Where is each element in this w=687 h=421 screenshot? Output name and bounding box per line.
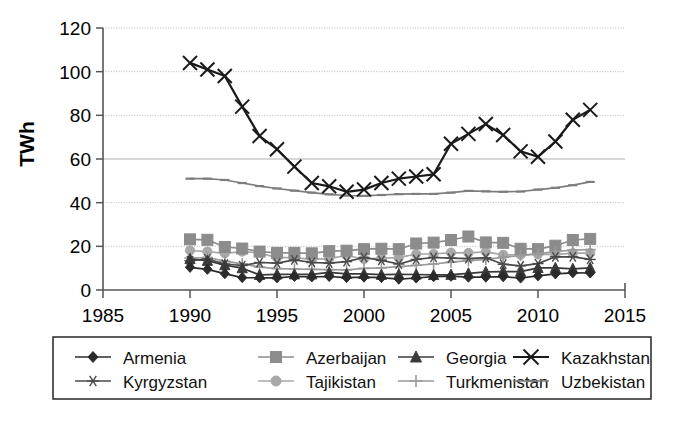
y-axis-title: TWh (15, 121, 38, 166)
legend-label-azerbaijan: Azerbaijan (306, 349, 386, 368)
marker-x (218, 69, 232, 83)
y-tick-label-100: 100 (59, 62, 91, 83)
legend-label-georgia: Georgia (446, 349, 507, 368)
marker-x (235, 100, 249, 114)
marker-square (272, 247, 283, 258)
marker-square (219, 241, 230, 252)
x-tick-label-2005: 2005 (430, 305, 472, 326)
marker-square (271, 352, 282, 363)
legend-label-kazakhstan: Kazakhstan (561, 349, 650, 368)
marker-square (480, 237, 491, 248)
x-tick-label-2010: 2010 (517, 305, 559, 326)
marker-x (461, 127, 475, 141)
marker-x (514, 144, 528, 158)
y-tick-label-120: 120 (59, 18, 91, 39)
y-tick-label-80: 80 (70, 105, 91, 126)
marker-x (287, 160, 301, 174)
y-tick-label-20: 20 (70, 236, 91, 257)
marker-diamond (429, 272, 438, 282)
marker-diamond (88, 352, 98, 363)
y-tick-label-60: 60 (70, 149, 91, 170)
marker-plus (428, 258, 439, 269)
x-tick-label-2000: 2000 (343, 305, 385, 326)
marker-circle (412, 249, 421, 258)
series-line-azerbaijan (190, 237, 590, 254)
legend-item-kazakhstan[interactable]: Kazakhstan (513, 349, 650, 368)
x-tick-label-1995: 1995 (256, 305, 298, 326)
legend-item-tajikistan[interactable]: Tajikistan (258, 373, 376, 392)
marker-x (531, 150, 545, 164)
marker-square (341, 245, 352, 256)
x-tick-label-1990: 1990 (169, 305, 211, 326)
marker-square (324, 246, 335, 257)
marker-asterisk (87, 376, 99, 386)
marker-square (393, 244, 404, 255)
y-tick-label-0: 0 (80, 280, 91, 301)
marker-square (185, 234, 196, 245)
marker-circle (271, 376, 281, 386)
legend-item-turkmenistan[interactable]: Turkmenistan (398, 373, 548, 392)
marker-x (479, 117, 493, 131)
marker-x (253, 129, 267, 143)
y-tick-label-40: 40 (70, 193, 91, 214)
legend-label-turkmenistan: Turkmenistan (446, 373, 548, 392)
marker-square (428, 237, 439, 248)
legend-item-armenia[interactable]: Armenia (75, 349, 187, 368)
marker-x (270, 142, 284, 156)
x-tick-label-1985: 1985 (82, 305, 124, 326)
marker-square (498, 237, 509, 248)
marker-x (200, 62, 214, 76)
x-tick-label-2015: 2015 (604, 305, 646, 326)
legend-label-armenia: Armenia (123, 349, 187, 368)
marker-circle (446, 248, 455, 257)
marker-x (183, 56, 197, 70)
series-line-kazakhstan (190, 63, 590, 192)
marker-diamond (238, 272, 247, 282)
marker-square (289, 247, 300, 258)
marker-plus (410, 375, 422, 387)
marker-x (583, 103, 597, 117)
marker-x (566, 113, 580, 127)
marker-x (374, 176, 388, 190)
marker-x (444, 137, 458, 151)
marker-square (306, 248, 317, 259)
marker-square (237, 243, 248, 254)
marker-square (446, 235, 457, 246)
legend-label-kyrgyzstan: Kyrgyzstan (123, 373, 207, 392)
legend-item-azerbaijan[interactable]: Azerbaijan (258, 349, 386, 368)
marker-square (376, 243, 387, 254)
marker-square (585, 233, 596, 244)
marker-plus (463, 255, 474, 266)
marker-x (548, 135, 562, 149)
series-kazakhstan (183, 56, 597, 199)
legend-label-uzbekistan: Uzbekistan (561, 373, 645, 392)
marker-square (411, 238, 422, 249)
line-chart: 0204060801001201985199019952000200520102… (0, 0, 687, 421)
marker-square (254, 246, 265, 257)
marker-diamond (290, 271, 299, 281)
marker-x (496, 128, 510, 142)
legend-item-georgia[interactable]: Georgia (398, 349, 507, 368)
marker-square (463, 231, 474, 242)
marker-square (359, 244, 370, 255)
chart-container: 0204060801001201985199019952000200520102… (0, 0, 687, 421)
legend-label-tajikistan: Tajikistan (306, 373, 376, 392)
marker-square (567, 235, 578, 246)
marker-square (202, 234, 213, 245)
legend-item-kyrgyzstan[interactable]: Kyrgyzstan (75, 373, 207, 392)
